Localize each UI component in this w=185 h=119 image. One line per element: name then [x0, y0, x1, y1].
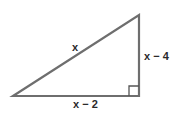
triangle-shape: [13, 15, 139, 96]
vertical-leg-label: x − 4: [144, 51, 169, 62]
right-triangle-diagram: x x − 4 x − 2: [0, 0, 185, 119]
horizontal-leg-label: x − 2: [73, 99, 98, 110]
right-angle-marker: [129, 86, 139, 96]
hypotenuse-label: x: [72, 42, 78, 53]
